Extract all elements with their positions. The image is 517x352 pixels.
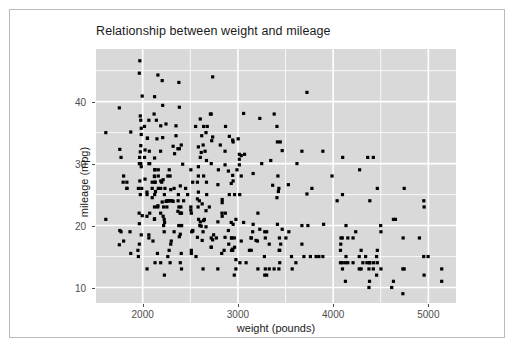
y-tick-mark <box>92 288 95 289</box>
data-point <box>217 168 220 171</box>
data-point <box>238 261 241 264</box>
data-point <box>119 156 122 159</box>
data-point <box>344 224 347 227</box>
data-point <box>138 222 141 225</box>
data-point <box>376 249 379 252</box>
data-point <box>376 261 379 264</box>
data-point <box>294 261 297 264</box>
data-point <box>201 202 204 205</box>
data-point <box>169 199 172 202</box>
data-point <box>143 178 146 181</box>
data-point <box>379 230 382 233</box>
data-point <box>205 181 208 184</box>
data-point <box>263 255 266 258</box>
data-point <box>273 112 276 115</box>
data-point <box>252 223 255 226</box>
data-point <box>141 94 144 97</box>
data-point <box>220 212 223 215</box>
data-point <box>423 205 426 208</box>
data-point <box>245 261 248 264</box>
data-points <box>104 59 443 295</box>
data-point <box>220 252 223 255</box>
data-point <box>210 246 213 249</box>
data-point <box>211 238 214 241</box>
data-point <box>243 153 246 156</box>
data-point <box>230 236 233 239</box>
data-point <box>125 181 128 184</box>
data-point <box>180 143 183 146</box>
data-point <box>129 130 132 133</box>
data-point <box>151 196 154 199</box>
data-point <box>128 230 131 233</box>
data-point <box>354 230 357 233</box>
data-point <box>264 236 267 239</box>
data-point <box>367 267 370 270</box>
data-point <box>315 255 318 258</box>
data-point <box>208 205 211 208</box>
data-point <box>138 156 141 159</box>
figure-frame: Relationship between weight and mileage … <box>9 9 505 338</box>
data-point <box>153 193 156 196</box>
data-point <box>138 72 141 75</box>
data-point <box>164 122 167 125</box>
data-point <box>351 261 354 264</box>
data-point <box>277 267 280 270</box>
data-point <box>287 230 290 233</box>
data-point <box>223 163 226 166</box>
data-point <box>177 199 180 202</box>
data-point <box>172 145 175 148</box>
data-point <box>223 249 226 252</box>
data-point <box>305 192 308 195</box>
data-point <box>223 236 226 239</box>
data-point <box>178 147 181 150</box>
data-point <box>138 212 141 215</box>
data-point <box>375 274 378 277</box>
data-point <box>178 235 181 238</box>
data-point <box>250 249 253 252</box>
data-point <box>256 267 259 270</box>
data-point <box>138 243 141 246</box>
data-point <box>170 239 173 242</box>
data-point <box>155 137 158 140</box>
data-point <box>159 212 162 215</box>
data-point <box>205 193 208 196</box>
data-point <box>153 181 156 184</box>
data-point <box>139 150 142 153</box>
data-point <box>339 249 342 252</box>
data-point <box>163 187 166 190</box>
data-point <box>211 75 214 78</box>
data-point <box>240 174 243 177</box>
data-point <box>139 193 142 196</box>
data-point <box>147 162 150 165</box>
data-point <box>140 133 143 136</box>
data-point <box>321 150 324 153</box>
data-point <box>180 252 183 255</box>
data-point <box>252 172 255 175</box>
data-point <box>156 252 159 255</box>
data-point <box>368 261 371 264</box>
data-point <box>118 229 121 232</box>
data-point <box>392 280 395 283</box>
data-point <box>168 168 171 171</box>
data-point <box>162 215 165 218</box>
data-point <box>268 267 271 270</box>
data-point <box>403 187 406 190</box>
data-point <box>163 218 166 221</box>
data-point <box>181 163 184 166</box>
data-point <box>216 183 219 186</box>
data-point <box>197 145 200 148</box>
data-point <box>174 124 177 127</box>
data-point <box>300 224 303 227</box>
data-point <box>372 156 375 159</box>
data-point <box>302 255 305 258</box>
data-point <box>309 255 312 258</box>
data-point <box>156 204 159 207</box>
data-point <box>148 150 151 153</box>
data-point <box>189 205 192 208</box>
data-point <box>422 255 425 258</box>
data-point <box>233 236 236 239</box>
data-point <box>233 193 236 196</box>
data-point <box>189 168 192 171</box>
data-point <box>104 218 107 221</box>
data-point <box>145 267 148 270</box>
